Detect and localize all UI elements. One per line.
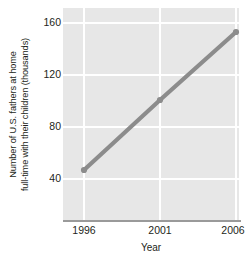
line-chart-figure: Number of U.S. fathers at home full-time… <box>0 0 252 261</box>
y-axis-tick-labels: 160 120 80 40 <box>36 8 61 220</box>
plot-area <box>63 8 239 220</box>
x-tick-label-2006: 2006 <box>211 224 252 237</box>
y-tick-label-80: 80 <box>37 121 61 132</box>
data-point-2001 <box>157 97 163 103</box>
y-axis-title: Number of U.S. fathers at home full-time… <box>0 0 40 228</box>
y-axis-title-text: Number of U.S. fathers at home full-time… <box>9 37 32 190</box>
data-series-group <box>63 8 239 220</box>
x-axis-tick-labels: 1996 2001 2006 <box>63 224 239 238</box>
x-axis-line <box>63 220 241 222</box>
y-tick-label-120: 120 <box>37 69 61 80</box>
data-point-1996 <box>81 167 87 173</box>
y-axis-title-line-2: full-time with their children (thousands… <box>20 37 32 190</box>
data-point-2006 <box>233 29 239 35</box>
y-axis-title-line-1: Number of U.S. fathers at home <box>9 51 19 178</box>
y-tick-label-160: 160 <box>37 17 61 28</box>
y-tick-label-40: 40 <box>37 173 61 184</box>
x-tick-label-2001: 2001 <box>138 224 182 237</box>
x-axis-title: Year <box>63 242 239 254</box>
x-tick-label-1996: 1996 <box>62 224 106 237</box>
